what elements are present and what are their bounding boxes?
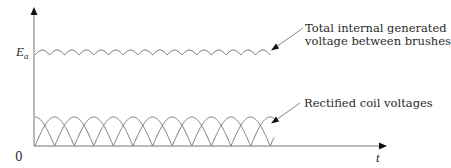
y-axis-label: Ea xyxy=(16,44,28,61)
arrowhead-icon xyxy=(271,44,279,51)
annotation-rectified-line1: Rectified coil voltages xyxy=(304,97,433,110)
x-axis-arrow-icon xyxy=(379,143,387,150)
annotation-rectified-voltages: Rectified coil voltages xyxy=(304,97,433,110)
total-voltage-ripple xyxy=(35,50,270,55)
y-axis-label-subscript: a xyxy=(24,51,29,61)
annotation-arrow-rectified xyxy=(276,103,300,120)
origin-label: 0 xyxy=(15,150,23,164)
annotation-arrow-total xyxy=(276,28,303,47)
y-axis-arrow-icon xyxy=(31,7,38,15)
x-axis-label: t xyxy=(376,150,380,166)
annotation-total-line2: voltage between brushes xyxy=(305,35,451,48)
annotation-total-voltage: Total internal generated voltage between… xyxy=(305,22,451,48)
y-axis-label-main: E xyxy=(16,44,24,59)
